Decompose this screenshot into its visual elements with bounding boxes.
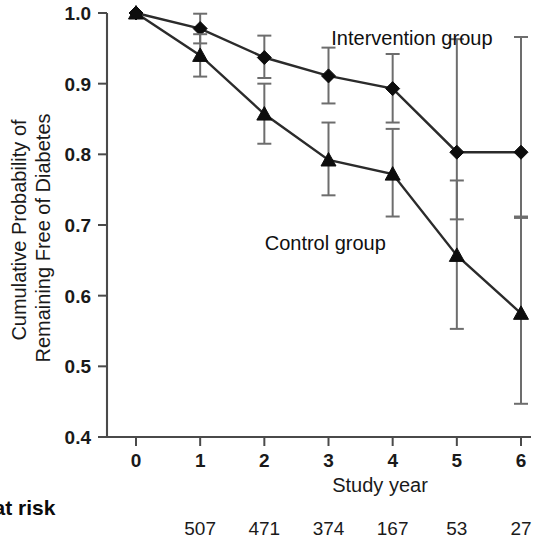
chart-canvas: 0.40.50.60.70.80.91.0 0123456 Interventi… (0, 0, 533, 500)
y-axis-title-line1: Cumulative Probability of (8, 119, 30, 341)
y-tick-label: 0.4 (65, 427, 92, 448)
x-axis: 0123456 (107, 437, 531, 471)
risk-count: 27 (510, 518, 531, 540)
x-tick-label: 1 (195, 450, 206, 471)
y-axis: 0.40.50.60.70.80.91.0 (65, 3, 107, 448)
x-axis-title: Study year (332, 474, 428, 496)
y-tick-label: 1.0 (65, 3, 91, 24)
series-label: Intervention group (331, 27, 492, 49)
x-tick-label: 2 (259, 450, 270, 471)
risk-count: 167 (377, 518, 409, 540)
data-point-marker (322, 69, 336, 83)
x-tick-label: 6 (516, 450, 527, 471)
risk-count: 471 (248, 518, 280, 540)
data-series-layer (129, 6, 529, 404)
error-bar (514, 37, 528, 216)
risk-count: 53 (446, 518, 467, 540)
data-point-marker (321, 152, 336, 166)
risk-table-title: s at risk (0, 496, 55, 520)
x-tick-label: 5 (452, 450, 463, 471)
x-axis-ticks: 0123456 (131, 437, 527, 471)
data-point-marker (193, 48, 208, 62)
data-point-marker (514, 145, 528, 159)
y-tick-label: 0.9 (65, 74, 91, 95)
x-tick-label: 3 (323, 450, 334, 471)
kaplan-meier-figure: 0.40.50.60.70.80.91.0 0123456 Interventi… (0, 0, 533, 544)
x-tick-label: 4 (387, 450, 398, 471)
risk-count: 374 (313, 518, 345, 540)
y-tick-label: 0.7 (65, 215, 91, 236)
series-label: Control group (265, 232, 386, 254)
risk-count: 507 (184, 518, 216, 540)
y-axis-title-line2: Remaining Free of Diabetes (32, 113, 54, 362)
data-point-marker (257, 51, 271, 65)
y-tick-label: 0.5 (65, 356, 92, 377)
y-tick-label: 0.8 (65, 144, 91, 165)
x-tick-label: 0 (131, 450, 142, 471)
y-tick-label: 0.6 (65, 286, 91, 307)
y-axis-ticks: 0.40.50.60.70.80.91.0 (65, 3, 107, 448)
